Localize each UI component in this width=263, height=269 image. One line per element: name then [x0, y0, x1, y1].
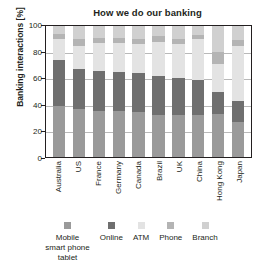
bar-segment[interactable] — [212, 52, 224, 64]
x-label-slot: Hong Kong — [209, 159, 229, 215]
bar-segment[interactable] — [132, 73, 144, 112]
bar-segment[interactable] — [113, 43, 125, 72]
bar-segment[interactable] — [212, 64, 224, 92]
x-tick-label: Hong Kong — [214, 161, 223, 201]
x-label-slot: UK — [169, 159, 189, 215]
x-tick-label: France — [94, 161, 103, 186]
legend-swatch — [167, 222, 174, 229]
bar-segment[interactable] — [192, 39, 204, 80]
bar-segment[interactable] — [212, 114, 224, 157]
stacked-bar[interactable] — [93, 26, 105, 157]
legend-item[interactable]: Online — [100, 222, 123, 243]
bar-segment[interactable] — [152, 115, 164, 157]
legend-label: Branch — [192, 233, 217, 243]
bar-segment[interactable] — [192, 80, 204, 115]
stacked-bar[interactable] — [152, 26, 164, 157]
legend-swatch — [202, 222, 209, 229]
bar-segment[interactable] — [113, 111, 125, 157]
bar-slot — [168, 26, 188, 157]
bar-slot — [69, 26, 89, 157]
bar-segment[interactable] — [73, 46, 85, 70]
x-tick-label: Japan — [234, 161, 243, 183]
x-tick-label: Brazil — [154, 161, 163, 181]
chart-title: How we do our banking — [40, 7, 255, 18]
bar-segment[interactable] — [232, 122, 244, 157]
bar-slot — [149, 26, 169, 157]
x-axis-labels: AustraliaUSFranceGermanyCanadaBrazilUKCh… — [45, 159, 252, 215]
bar-segment[interactable] — [132, 26, 144, 39]
y-tick-label: 100 — [29, 21, 42, 30]
x-tick-label: China — [194, 161, 203, 182]
bar-group — [46, 26, 251, 157]
bar-segment[interactable] — [152, 26, 164, 36]
bar-segment[interactable] — [93, 71, 105, 112]
bar-slot — [228, 26, 248, 157]
bar-segment[interactable] — [152, 42, 164, 76]
legend-item[interactable]: Branch — [192, 222, 217, 243]
bar-segment[interactable] — [172, 44, 184, 78]
bar-segment[interactable] — [192, 115, 204, 157]
x-tick-label: UK — [174, 161, 183, 172]
x-tick-label: Australia — [54, 161, 63, 192]
bar-segment[interactable] — [192, 26, 204, 35]
legend-item[interactable]: ATM — [133, 222, 149, 243]
bar-segment[interactable] — [73, 26, 85, 39]
bar-segment[interactable] — [212, 26, 224, 52]
bar-segment[interactable] — [172, 26, 184, 39]
stacked-bar[interactable] — [113, 26, 125, 157]
bar-segment[interactable] — [53, 106, 65, 157]
legend-label-line: Branch — [192, 233, 217, 243]
bar-segment[interactable] — [172, 115, 184, 157]
legend-item[interactable]: Phone — [159, 222, 182, 243]
stacked-bar[interactable] — [232, 26, 244, 157]
legend-swatch — [138, 222, 145, 229]
bar-segment[interactable] — [53, 60, 65, 106]
x-tick-label: US — [74, 161, 83, 172]
bar-segment[interactable] — [132, 112, 144, 157]
bar-slot — [188, 26, 208, 157]
x-tick-label: Canada — [134, 161, 143, 189]
bar-segment[interactable] — [113, 72, 125, 111]
x-label-slot: Australia — [48, 159, 68, 215]
bar-segment[interactable] — [93, 43, 105, 71]
bar-segment[interactable] — [212, 92, 224, 114]
legend-label-line: tablet — [45, 253, 89, 263]
bar-segment[interactable] — [232, 26, 244, 40]
stacked-bar[interactable] — [53, 26, 65, 157]
x-tick-label: Germany — [114, 161, 123, 194]
legend-item[interactable]: Mobilesmart phonetablet — [45, 222, 89, 263]
legend-label-line: Mobile — [45, 233, 89, 243]
bar-slot — [129, 26, 149, 157]
legend-label: ATM — [133, 233, 149, 243]
bar-segment[interactable] — [93, 111, 105, 157]
chart-figure: How we do our banking Banking interactio… — [0, 0, 263, 269]
bar-segment[interactable] — [53, 39, 65, 60]
stacked-bar[interactable] — [73, 26, 85, 157]
chart-legend: Mobilesmart phonetabletOnlineATMPhoneBra… — [0, 222, 263, 263]
bar-segment[interactable] — [113, 26, 125, 38]
bar-segment[interactable] — [93, 26, 105, 38]
bar-segment[interactable] — [53, 26, 65, 34]
legend-label-line: Online — [100, 233, 123, 243]
stacked-bar[interactable] — [172, 26, 184, 157]
bar-segment[interactable] — [73, 109, 85, 157]
bar-segment[interactable] — [152, 76, 164, 115]
legend-label: Mobilesmart phonetablet — [45, 233, 89, 263]
legend-label-line: ATM — [133, 233, 149, 243]
stacked-bar[interactable] — [132, 26, 144, 157]
bar-segment[interactable] — [172, 78, 184, 115]
bar-slot — [208, 26, 228, 157]
bar-slot — [89, 26, 109, 157]
bar-segment[interactable] — [132, 44, 144, 73]
stacked-bar[interactable] — [212, 26, 224, 157]
bar-segment[interactable] — [232, 46, 244, 101]
x-label-slot: Germany — [108, 159, 128, 215]
bar-segment[interactable] — [232, 101, 244, 122]
bar-segment[interactable] — [73, 69, 85, 108]
stacked-bar[interactable] — [192, 26, 204, 157]
y-axis-label: Banking interactions [%] — [15, 0, 25, 132]
legend-label-line: Phone — [159, 233, 182, 243]
legend-label-line: smart phone — [45, 243, 89, 253]
x-label-slot: Japan — [229, 159, 249, 215]
x-label-slot: China — [189, 159, 209, 215]
